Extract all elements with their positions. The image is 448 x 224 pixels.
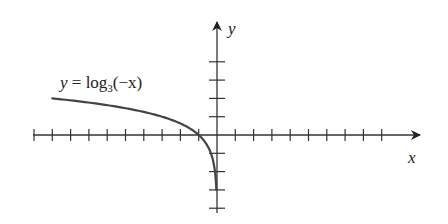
eq-rhs: (−x) <box>113 73 142 92</box>
log-curve <box>52 98 216 190</box>
graph-canvas: x y y = log3(−x) <box>0 0 448 224</box>
curve-equation-label: y = log3(−x) <box>58 73 142 94</box>
y-axis-label: y <box>226 19 236 38</box>
eq-y: y <box>58 73 68 92</box>
axes <box>33 22 420 213</box>
x-axis-label: x <box>407 148 416 167</box>
eq-lhs: = log <box>68 73 108 92</box>
